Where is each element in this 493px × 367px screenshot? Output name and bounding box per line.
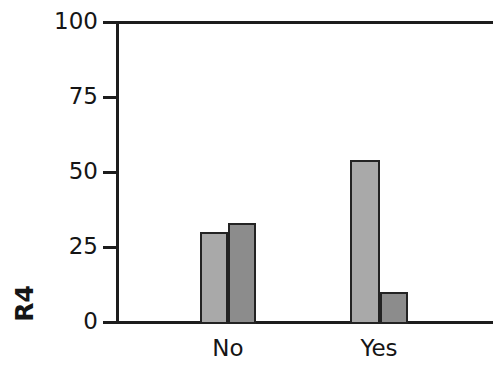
bar-yes-series-2 <box>380 292 408 324</box>
bar-chart: R4 100 75 50 25 0 No Yes <box>0 0 493 367</box>
plot-area <box>0 0 493 367</box>
x-category-label-no: No <box>188 336 268 360</box>
bar-no-series-2 <box>228 223 256 324</box>
bar-no-series-1 <box>200 232 228 324</box>
x-category-label-yes: Yes <box>339 336 419 360</box>
bar-yes-series-1 <box>350 160 380 324</box>
